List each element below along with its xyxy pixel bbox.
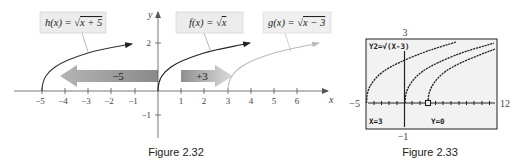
svg-text:1: 1 — [179, 96, 184, 106]
caption-figure-2-32: Figure 2.32 — [148, 146, 204, 158]
y-tick-2: 2 — [147, 38, 152, 48]
y-tick-neg1: −1 — [141, 110, 151, 120]
x-tick-labels: −5 −4 −3 −2 −1 1 2 3 4 5 6 — [35, 96, 300, 106]
caption-figure-2-33: Figure 2.33 — [402, 146, 458, 158]
label-h: h(x) = √x + 5 — [40, 12, 106, 52]
shift-left-label: −5 — [112, 70, 124, 82]
window-xmax-label: 12 — [500, 98, 510, 109]
svg-text:−3: −3 — [81, 96, 91, 106]
svg-text:5: 5 — [272, 96, 277, 106]
figure-2-32: −5 +3 x y −5 −4 −3 −2 — [14, 9, 334, 158]
svg-text:h(x) = √x + 5: h(x) = √x + 5 — [45, 17, 102, 29]
svg-text:f(x) = √x: f(x) = √x — [189, 17, 227, 29]
trace-cursor — [426, 101, 431, 106]
svg-text:−1: −1 — [128, 96, 138, 106]
y-axis-name: y — [147, 9, 153, 20]
svg-text:g(x) = √x − 3: g(x) = √x − 3 — [268, 17, 325, 29]
svg-text:6: 6 — [295, 96, 300, 106]
shift-right-label: +3 — [196, 70, 208, 82]
window-ymin-label: −1 — [398, 131, 409, 142]
window-ymax-label: 3 — [403, 27, 408, 38]
svg-text:−5: −5 — [35, 96, 45, 106]
svg-text:−4: −4 — [58, 96, 68, 106]
svg-text:3: 3 — [226, 96, 231, 106]
screen-y-value: Y=0 — [431, 117, 445, 126]
svg-text:2: 2 — [202, 96, 207, 106]
svg-text:−2: −2 — [104, 96, 114, 106]
label-g: g(x) = √x − 3 — [263, 12, 331, 52]
figure-canvas: −5 +3 x y −5 −4 −3 −2 — [0, 0, 523, 164]
figure-2-33: 3 −5 12 −1 — [349, 27, 510, 158]
svg-text:4: 4 — [249, 96, 254, 106]
shift-right-arrow: +3 — [181, 65, 233, 87]
shift-left-arrow: −5 — [60, 65, 158, 87]
screen-x-value: X=3 — [369, 117, 383, 126]
curve-g — [228, 43, 319, 91]
curve-f — [158, 43, 250, 91]
calculator-screen — [366, 39, 497, 129]
curve-h — [42, 44, 132, 91]
window-xmin-label: −5 — [349, 98, 360, 109]
screen-function-text: Y2=√(X-3) — [369, 42, 410, 51]
x-axis-name: x — [328, 94, 334, 105]
